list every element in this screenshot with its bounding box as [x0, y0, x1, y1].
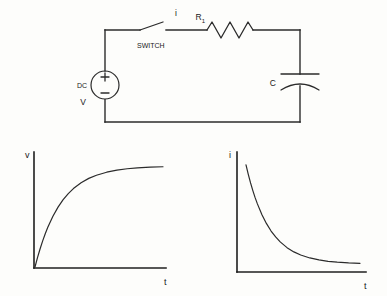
current-chart-x-label: t [364, 281, 367, 291]
current-chart-y-label: i [229, 150, 231, 160]
figure-canvas: i SWITCH R1 DC V C v t i t [0, 0, 387, 296]
current-decay-curve [246, 165, 360, 263]
chart-current-vs-time: i t [0, 0, 387, 296]
